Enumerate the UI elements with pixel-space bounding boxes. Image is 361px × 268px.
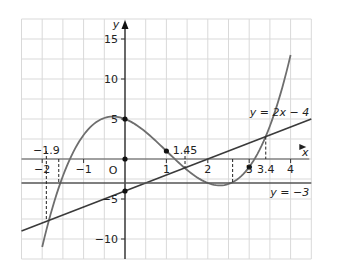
annotation-label: 3.4	[257, 163, 275, 176]
y-tick-label: 5	[111, 113, 118, 126]
origin-label: O	[109, 164, 118, 177]
data-point	[122, 116, 127, 121]
y-tick-label: 10	[104, 73, 118, 86]
y-axis-arrow-icon	[122, 20, 129, 29]
hline-label: y = −3	[269, 186, 309, 199]
y-tick-label: −5	[102, 193, 118, 206]
x-axis-label: x	[301, 146, 309, 159]
x-tick-label: 4	[287, 163, 294, 176]
data-point	[122, 156, 127, 161]
line-label: y = 2x − 4	[249, 106, 309, 119]
grid	[22, 19, 312, 259]
x-tick-label: −2	[34, 163, 50, 176]
data-point	[164, 148, 169, 153]
graph-canvas: −2−11234−10−551015Oxyy = 2x − 4y = −3−1.…	[0, 0, 361, 268]
x-tick-label: −1	[75, 163, 91, 176]
y-tick-label: 15	[104, 33, 118, 46]
annotation-label: 1.45	[173, 144, 198, 157]
x-tick-label: 2	[204, 163, 211, 176]
x-tick-label: 3	[246, 163, 253, 176]
data-point	[122, 188, 127, 193]
annotation-label: −1.9	[33, 144, 60, 157]
y-axis-label: y	[112, 18, 120, 31]
x-tick-label: 1	[163, 163, 170, 176]
y-tick-label: −10	[95, 233, 118, 246]
